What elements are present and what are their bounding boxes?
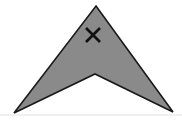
arrow-figure-svg: [0, 0, 182, 121]
figure-canvas: [0, 0, 182, 121]
